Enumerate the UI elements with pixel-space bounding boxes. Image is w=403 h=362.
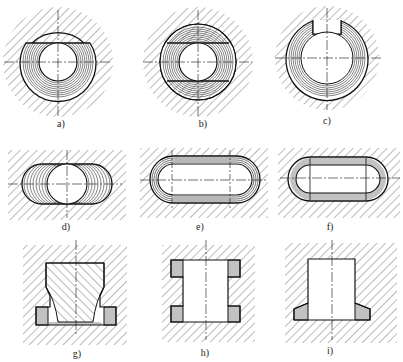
label-a: a) bbox=[57, 118, 65, 129]
panel-d bbox=[8, 150, 126, 220]
panel-a bbox=[3, 7, 113, 118]
label-d: d) bbox=[62, 221, 70, 232]
panel-g bbox=[23, 240, 127, 345]
machining-diagram bbox=[0, 0, 403, 362]
panel-b bbox=[143, 0, 253, 121]
label-b: b) bbox=[199, 118, 207, 129]
panel-h bbox=[162, 240, 255, 342]
label-c: c) bbox=[323, 115, 331, 126]
label-f: f) bbox=[327, 221, 334, 232]
label-i: i) bbox=[327, 345, 333, 356]
label-g: g) bbox=[73, 348, 81, 359]
label-e: e) bbox=[196, 221, 204, 232]
panel-f bbox=[278, 148, 400, 218]
label-h: h) bbox=[201, 347, 209, 358]
panel-i bbox=[285, 240, 397, 343]
panel-e bbox=[140, 148, 268, 218]
panel-c bbox=[275, 6, 382, 110]
